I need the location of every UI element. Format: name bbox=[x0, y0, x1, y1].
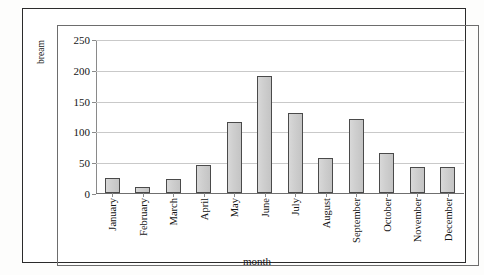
bar[interactable] bbox=[440, 167, 455, 193]
x-axis-label-slot: January bbox=[97, 196, 127, 258]
x-axis-label-slot: April bbox=[189, 196, 219, 258]
x-axis-label-slot: September bbox=[341, 196, 371, 258]
x-axis-label-slot: December bbox=[433, 196, 463, 258]
bar[interactable] bbox=[379, 153, 394, 193]
bar-series bbox=[97, 39, 463, 193]
bar-slot bbox=[128, 39, 158, 193]
x-axis-tick-label: October bbox=[381, 198, 392, 232]
bar[interactable] bbox=[166, 179, 181, 193]
y-axis-tick-mark bbox=[92, 132, 96, 133]
x-axis-label-slot: February bbox=[128, 196, 158, 258]
bar-slot bbox=[280, 39, 310, 193]
bar-slot bbox=[433, 39, 463, 193]
x-axis-label-slot: May bbox=[219, 196, 249, 258]
y-axis-title-line2: bream bbox=[33, 7, 49, 97]
figure-border: number of bacterial strains from sea bre… bbox=[22, 8, 466, 263]
bar-slot bbox=[97, 39, 127, 193]
x-axis-tick-label: June bbox=[259, 198, 270, 217]
x-axis-label-slot: August bbox=[311, 196, 341, 258]
x-axis-tick-label: December bbox=[442, 198, 453, 241]
x-axis-title-text: month bbox=[243, 255, 271, 267]
x-axis-tick-label: July bbox=[290, 198, 301, 216]
bar-slot bbox=[372, 39, 402, 193]
chart-page: number of bacterial strains from sea bre… bbox=[0, 0, 484, 275]
x-axis-label-slot: November bbox=[402, 196, 432, 258]
x-axis-title: month bbox=[23, 255, 484, 267]
bar-slot bbox=[189, 39, 219, 193]
x-axis-tick-label: September bbox=[351, 198, 362, 243]
y-axis-tick-mark bbox=[92, 102, 96, 103]
bar[interactable] bbox=[196, 165, 211, 193]
bar[interactable] bbox=[349, 119, 364, 193]
y-axis-tick-mark bbox=[92, 40, 96, 41]
bar-slot bbox=[219, 39, 249, 193]
x-axis-tick-labels: JanuaryFebruaryMarchAprilMayJuneJulyAugu… bbox=[97, 196, 463, 258]
x-axis-label-slot: March bbox=[158, 196, 188, 258]
bar[interactable] bbox=[257, 76, 272, 193]
bar-slot bbox=[341, 39, 371, 193]
plot-inner: 050100150200250 bbox=[96, 40, 481, 194]
x-axis-tick-label: January bbox=[107, 198, 118, 231]
x-axis-line bbox=[96, 193, 464, 194]
y-axis-tick-label: 150 bbox=[74, 96, 91, 108]
y-axis-tick-label: 250 bbox=[74, 34, 91, 46]
x-axis-label-slot: June bbox=[250, 196, 280, 258]
y-axis-title-text-line2: bream bbox=[36, 40, 46, 64]
bar[interactable] bbox=[288, 113, 303, 193]
x-axis-label-slot: July bbox=[280, 196, 310, 258]
bar-slot bbox=[250, 39, 280, 193]
x-axis-tick-label: March bbox=[168, 198, 179, 225]
x-axis-tick-label: May bbox=[229, 198, 240, 217]
x-axis-tick-label: April bbox=[198, 198, 209, 220]
y-axis-tick-label: 50 bbox=[79, 157, 90, 169]
y-axis-tick-label: 0 bbox=[85, 188, 91, 200]
plot-area: 050100150200250 bbox=[96, 40, 481, 194]
bar[interactable] bbox=[410, 167, 425, 193]
y-axis-tick-label: 100 bbox=[74, 126, 91, 138]
x-axis-tick-label: February bbox=[137, 198, 148, 236]
bar[interactable] bbox=[105, 178, 120, 193]
x-axis-label-slot: October bbox=[372, 196, 402, 258]
bar[interactable] bbox=[318, 158, 333, 193]
bar-slot bbox=[311, 39, 341, 193]
bar[interactable] bbox=[227, 122, 242, 193]
x-axis-tick-label: November bbox=[412, 198, 423, 242]
bar-slot bbox=[158, 39, 188, 193]
y-axis-tick-mark bbox=[92, 71, 96, 72]
x-axis-tick-label: August bbox=[320, 198, 331, 228]
bar-slot bbox=[402, 39, 432, 193]
y-axis-tick-label: 200 bbox=[74, 65, 91, 77]
y-axis-tick-mark bbox=[92, 194, 96, 195]
y-axis-tick-mark bbox=[92, 163, 96, 164]
